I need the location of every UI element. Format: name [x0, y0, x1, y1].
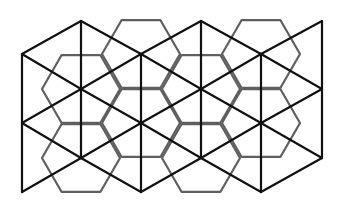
- tiling-diagram: [0, 0, 341, 210]
